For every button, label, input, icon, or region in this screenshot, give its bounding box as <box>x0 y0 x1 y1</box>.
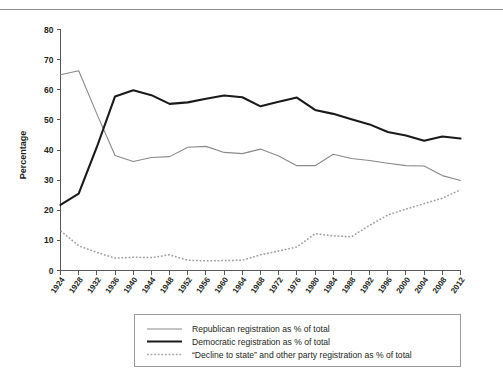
x-tick-label: 1996 <box>376 275 394 295</box>
x-tick-label: 2004 <box>413 275 431 295</box>
x-tick-label: 1952 <box>176 275 194 295</box>
x-tick-label: 1988 <box>340 275 358 295</box>
y-tick-label: 50 <box>44 115 54 125</box>
legend-label-republican: Republican registration as % of total <box>192 324 330 334</box>
y-tick-label: 60 <box>44 85 54 95</box>
y-tick-label: 80 <box>44 25 54 35</box>
x-tick-label: 1924 <box>49 275 67 295</box>
x-tick-label: 1964 <box>231 275 249 295</box>
x-tick-label: 1972 <box>267 275 285 295</box>
x-tick-label: 1936 <box>104 275 122 295</box>
x-tick-label: 1980 <box>304 275 322 295</box>
legend-label-decline-to-state: “Decline to state” and other party regis… <box>192 350 412 360</box>
x-tick-label: 1976 <box>285 275 303 295</box>
x-tick-label: 2000 <box>395 275 413 295</box>
line-chart: Percentage 01020304050607080 19241928193… <box>0 0 503 373</box>
chart-page: Percentage 01020304050607080 19241928193… <box>0 0 503 373</box>
x-tick-label: 1932 <box>85 275 103 295</box>
y-tick-label: 0 <box>49 266 54 276</box>
series-line-democratic <box>61 90 461 204</box>
x-tick-label: 1940 <box>122 275 140 295</box>
y-tick-label: 10 <box>44 235 54 245</box>
series-line-republican <box>61 71 461 181</box>
x-tick-label: 1956 <box>195 275 213 295</box>
axis-lines <box>61 30 461 271</box>
x-tick-label: 2012 <box>449 275 467 295</box>
y-tick-label: 20 <box>44 205 54 215</box>
x-axis-ticks: 1924192819321936194019441948195219561960… <box>49 271 467 296</box>
y-axis-title: Percentage <box>18 131 28 180</box>
y-axis-ticks: 01020304050607080 <box>44 25 60 276</box>
x-tick-label: 1928 <box>67 275 85 295</box>
x-tick-label: 1992 <box>358 275 376 295</box>
y-tick-label: 40 <box>44 145 54 155</box>
y-tick-label: 70 <box>44 55 54 65</box>
x-tick-label: 1984 <box>322 275 340 295</box>
chart-legend: Republican registration as % of total De… <box>135 315 461 367</box>
x-tick-label: 1944 <box>140 275 158 295</box>
y-tick-label: 30 <box>44 175 54 185</box>
x-tick-label: 1960 <box>213 275 231 295</box>
x-tick-label: 1948 <box>158 275 176 295</box>
x-tick-label: 2008 <box>431 275 449 295</box>
legend-label-democratic: Democratic registration as % of total <box>192 337 330 347</box>
series-line-decline-to-state <box>61 190 461 261</box>
x-tick-label: 1968 <box>249 275 267 295</box>
